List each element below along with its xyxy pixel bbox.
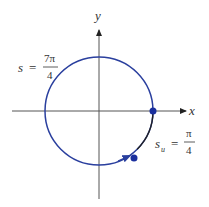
x-axis-label: x (188, 103, 195, 118)
y-axis-label: y (93, 8, 101, 23)
svg-text:s: s (18, 60, 23, 75)
svg-text:u: u (161, 145, 165, 154)
svg-text:=: = (29, 60, 36, 75)
arc-segment (137, 111, 153, 149)
svg-text:4: 4 (186, 144, 192, 156)
right-label: s u = π 4 (155, 127, 195, 156)
svg-text:=: = (171, 136, 178, 151)
svg-text:7π: 7π (44, 52, 56, 64)
svg-text:s: s (155, 136, 160, 151)
left-label: s = 7π 4 (18, 52, 58, 81)
diagram-canvas: y x s = 7π 4 s u = π 4 (0, 0, 209, 207)
point-start (150, 108, 157, 115)
unit-circle-diagram: y x s = 7π 4 s u = π 4 (0, 0, 209, 207)
point-end (131, 155, 138, 162)
svg-text:4: 4 (47, 69, 53, 81)
direction-arrow (118, 156, 129, 161)
svg-text:π: π (186, 127, 192, 139)
